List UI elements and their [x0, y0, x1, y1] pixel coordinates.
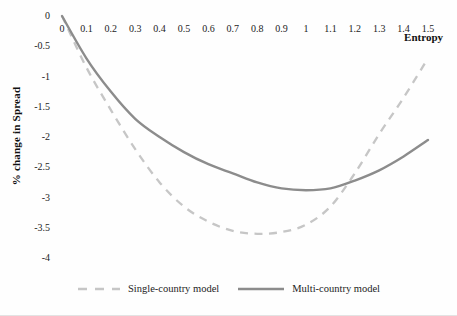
y-axis-title: % change in Spread — [10, 76, 22, 196]
curve-multi-country-model — [62, 16, 428, 190]
solid-line-swatch-icon — [237, 284, 285, 294]
x-axis-title: Entropy — [404, 31, 443, 43]
legend-label-single-country: Single-country model — [128, 283, 219, 294]
curve-single-country-model — [62, 16, 428, 234]
dashed-line-swatch-icon — [77, 284, 121, 294]
legend-item-single-country: Single-country model — [77, 283, 219, 294]
legend-item-multi-country: Multi-country model — [237, 283, 380, 294]
legend-label-multi-country: Multi-country model — [292, 283, 380, 294]
figure-root: 00.10.20.30.40.50.60.70.80.911.11.21.31.… — [0, 0, 457, 316]
legend: Single-country model Multi-country model — [0, 283, 457, 294]
